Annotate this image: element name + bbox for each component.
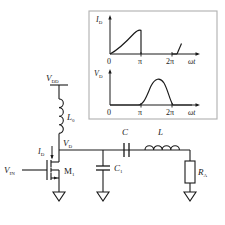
vd-xtick-label-2pi: 2π xyxy=(166,108,174,117)
load-resistor-RA: RA xyxy=(185,150,208,192)
id-xtick-label-pi: π xyxy=(138,57,142,66)
vdd-label: VDD xyxy=(46,73,59,84)
l-label: L xyxy=(157,127,163,137)
vd-xtick-label-pi: π xyxy=(138,108,142,117)
input-source: VIN xyxy=(4,165,30,176)
id-arrow-head xyxy=(50,155,53,160)
l-coil xyxy=(145,146,179,150)
ra-label: RA xyxy=(197,167,208,178)
waveform-inset-panel: ID 0 π 2π ωt VD 0 π 2π ωt xyxy=(89,11,217,119)
vd-xaxis-unit-label: ωt xyxy=(188,108,196,117)
supply-node: VDD xyxy=(46,73,68,99)
c-label: C xyxy=(122,127,129,137)
vd-node-label: VD xyxy=(63,138,73,149)
id-xaxis-unit-label: ωt xyxy=(188,57,196,66)
ground-symbols xyxy=(53,192,196,201)
id-current-label: ID xyxy=(37,147,45,157)
choke-coil xyxy=(59,99,63,133)
vin-label: VIN xyxy=(4,165,15,176)
ground-icon xyxy=(53,192,65,201)
ground-icon xyxy=(184,192,196,201)
id-xtick-label-2pi: 2π xyxy=(166,57,174,66)
circuit-schematic: ID 0 π 2π ωt VD 0 π 2π ωt xyxy=(0,0,225,225)
m1-source-arrow xyxy=(54,176,58,179)
c1-label: C1 xyxy=(114,163,123,174)
shunt-capacitor-C1: C1 xyxy=(96,150,123,192)
m1-label: M1 xyxy=(64,166,75,177)
series-capacitor-C: C xyxy=(122,127,129,157)
choke-label: L0 xyxy=(66,112,75,123)
drain-current-indicator: ID xyxy=(37,146,54,160)
ra-body xyxy=(185,161,195,183)
ground-icon xyxy=(97,192,109,201)
figure-canvas: ID 0 π 2π ωt VD 0 π 2π ωt xyxy=(0,0,225,225)
id-xtick-label-0: 0 xyxy=(107,57,111,66)
series-inductor-L: L xyxy=(145,127,179,150)
vd-xtick-label-0: 0 xyxy=(107,108,111,117)
